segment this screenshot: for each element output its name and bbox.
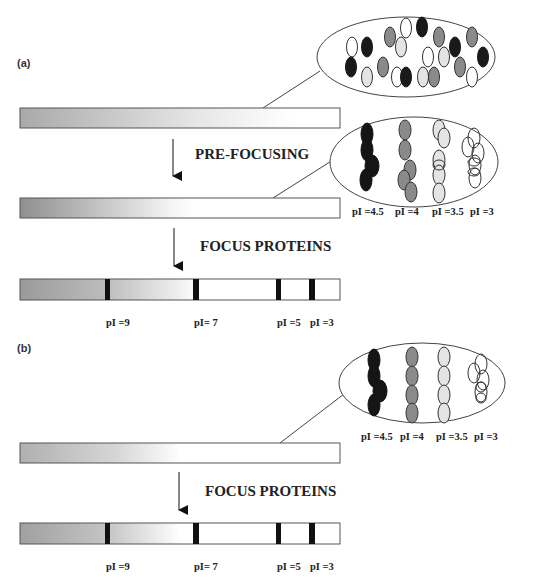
callout-line bbox=[263, 71, 320, 108]
ipg-strip-focused bbox=[20, 523, 340, 544]
focused-band-pi-7 bbox=[193, 279, 199, 300]
focused-band-pi-3 bbox=[309, 523, 315, 544]
pi-label: pI =3.5 bbox=[436, 431, 468, 442]
sorted-proteins-ellipse bbox=[339, 343, 505, 423]
pi-label: pI =4 bbox=[400, 431, 425, 442]
pi-label: pI =3 bbox=[470, 206, 494, 217]
protein-dot-light bbox=[439, 47, 450, 67]
pi-label: pI =4.5 bbox=[361, 431, 393, 442]
protein-dot-gray bbox=[429, 67, 440, 87]
protein-dot-gray bbox=[385, 27, 396, 47]
focused-band-pi-5 bbox=[276, 523, 281, 544]
pi-label: pI =4 bbox=[395, 206, 420, 217]
protein-dot-white bbox=[423, 47, 434, 67]
protein-dot-black bbox=[450, 37, 461, 57]
band-pi-label: pI =3 bbox=[310, 561, 334, 572]
sorted-proteins-callout: pI =4.5 pI =4 pI =3.5 pI =3 bbox=[280, 343, 505, 443]
step-label-focus-proteins: FOCUS PROTEINS bbox=[200, 238, 331, 254]
step-label-prefocusing: PRE-FOCUSING bbox=[195, 146, 310, 162]
panel-a-label: (a) bbox=[17, 57, 31, 69]
band-pi-label: pI =5 bbox=[277, 561, 301, 572]
ipg-strip-focused bbox=[20, 279, 340, 300]
protein-dot-light bbox=[362, 67, 373, 87]
protein-dot-light bbox=[418, 67, 429, 87]
protein-dot-light bbox=[396, 37, 407, 57]
focused-band-pi-5 bbox=[276, 279, 281, 300]
band-pi-label: pI =9 bbox=[106, 561, 130, 572]
callout-line bbox=[280, 394, 344, 443]
ipg-strip-prefocused bbox=[20, 198, 340, 218]
focused-band-pi-7 bbox=[193, 523, 199, 544]
pi-label: pI =3 bbox=[474, 431, 498, 442]
panel-b: (b) bbox=[17, 342, 505, 572]
pi-label: pI =4.5 bbox=[352, 206, 384, 217]
isoelectric-focusing-diagram: (a) PRE-FOCUSING bbox=[0, 0, 540, 585]
mixed-proteins-callout bbox=[263, 17, 495, 108]
band-pi-label: pI =3 bbox=[310, 317, 334, 328]
band-pi-label: pI= 7 bbox=[194, 561, 218, 572]
band-pi-label: pI =5 bbox=[277, 317, 301, 328]
protein-dot-gray bbox=[378, 57, 389, 77]
focused-band-pi-9 bbox=[105, 279, 110, 300]
protein-dot-white bbox=[467, 67, 478, 87]
protein-dot-white bbox=[347, 37, 358, 57]
band-pi-label: pI= 7 bbox=[194, 317, 218, 328]
protein-dot-black bbox=[346, 57, 357, 77]
protein-dot-black bbox=[401, 67, 412, 87]
ipg-strip-initial bbox=[20, 443, 340, 463]
protein-dot-black bbox=[362, 37, 373, 57]
step-label-focus-proteins: FOCUS PROTEINS bbox=[205, 483, 336, 499]
protein-dot-white bbox=[401, 18, 412, 38]
band-pi-label: pI =9 bbox=[106, 317, 130, 328]
protein-dot-black bbox=[417, 17, 428, 37]
protein-dot-black bbox=[478, 47, 489, 67]
panel-b-label: (b) bbox=[17, 342, 31, 354]
focused-band-pi-9 bbox=[105, 523, 110, 544]
pi-label: pI =3.5 bbox=[432, 206, 464, 217]
ipg-strip-initial bbox=[20, 108, 340, 128]
protein-dot-gray bbox=[434, 27, 445, 47]
focused-band-pi-3 bbox=[309, 279, 315, 300]
panel-a: (a) PRE-FOCUSING bbox=[17, 17, 498, 328]
protein-dot-gray bbox=[467, 27, 478, 47]
callout-line bbox=[273, 160, 333, 198]
protein-dot-gray bbox=[455, 57, 466, 77]
